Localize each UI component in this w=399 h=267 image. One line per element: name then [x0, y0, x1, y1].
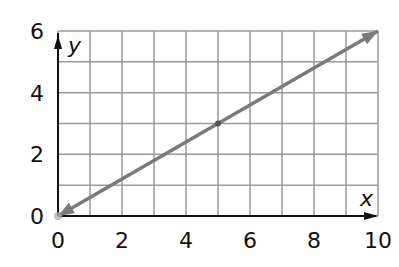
x-tick-label: 4 [179, 228, 193, 253]
y-axis-arrow-icon [54, 35, 62, 49]
y-tick-label: 4 [30, 81, 44, 106]
x-tick-label: 0 [51, 228, 65, 253]
x-tick-label: 6 [243, 228, 257, 253]
origin-point [54, 212, 62, 220]
data-series [54, 31, 378, 220]
line-arrowhead-end-icon [361, 31, 378, 44]
x-axis-arrow-icon [364, 212, 378, 220]
y-tick-label: 2 [30, 142, 44, 167]
y-tick-label: 0 [30, 204, 44, 229]
x-tick-label: 8 [307, 228, 321, 253]
line-chart: 02468100246 x y [0, 0, 399, 267]
marked-point [215, 121, 221, 127]
x-tick-label: 10 [364, 228, 392, 253]
x-tick-label: 2 [115, 228, 129, 253]
y-tick-label: 6 [30, 19, 44, 44]
y-axis-label: y [67, 33, 82, 58]
x-axis-label: x [359, 186, 374, 211]
